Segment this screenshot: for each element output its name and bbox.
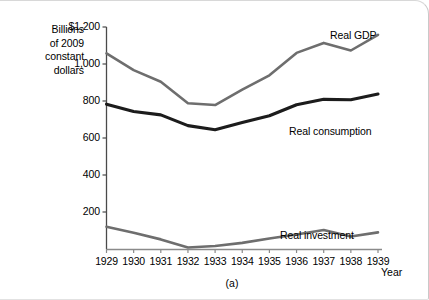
y-axis-tick-label: 200 (52, 205, 100, 217)
series-line-real-gdp (107, 35, 379, 105)
chart-axes (107, 27, 383, 250)
panel-caption: (a) (222, 277, 242, 289)
y-axis-tick-label: 800 (52, 94, 100, 106)
series-label-real-consumption: Real consumption (289, 125, 371, 137)
x-axis-name: Year (381, 266, 402, 278)
y-axis-tick-label: 600 (52, 131, 100, 143)
chart-series-lines (107, 35, 379, 248)
y-axis-tick-label: 1,000 (52, 57, 100, 69)
series-label-real-gdp: Real GDP (330, 29, 376, 41)
y-axis-tick-label: 400 (52, 168, 100, 180)
figure-panel: Billions of 2009 constant dollars $1,200… (0, 0, 429, 300)
series-label-real-investment: Real investment (280, 229, 354, 241)
y-axis-tick-label: $1,200 (52, 20, 100, 32)
